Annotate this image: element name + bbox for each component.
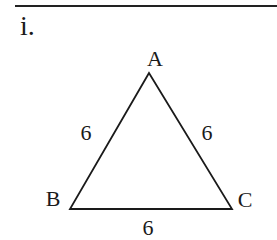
vertex-label-b: B	[46, 187, 61, 211]
side-label-bc: 6	[143, 216, 154, 240]
vertex-label-c: C	[238, 188, 253, 212]
side-label-ac: 6	[202, 121, 213, 145]
triangle-diagram	[0, 0, 277, 240]
side-label-ab: 6	[81, 121, 92, 145]
vertex-label-a: A	[147, 47, 163, 71]
